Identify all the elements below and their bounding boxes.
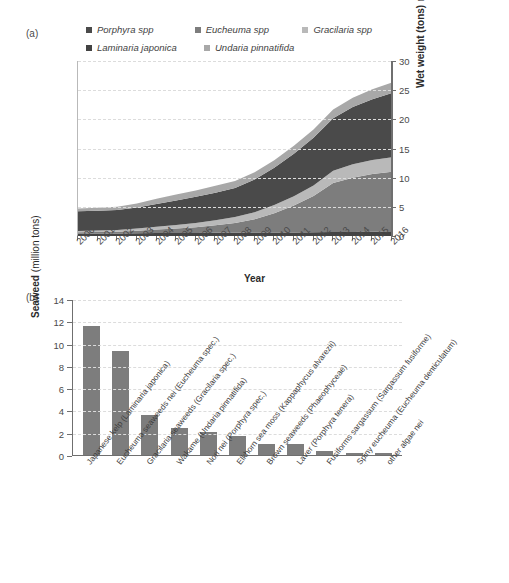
- y-axis-b-title-unit: (million tons): [30, 216, 41, 273]
- gridline-b-14: [73, 300, 402, 301]
- y-ticklabel-a-30: 30: [399, 56, 410, 67]
- legend-row-2: Laminaria japonica Undaria pinnatifida: [86, 40, 386, 55]
- y-tick-a-10: [391, 178, 396, 179]
- y-ticklabel-b-8: 8: [46, 361, 64, 372]
- gridline-b-8: [73, 367, 402, 368]
- y-tick-b-14: [67, 300, 72, 301]
- gridline-a-25: [78, 90, 391, 91]
- y-tick-a-20: [391, 119, 396, 120]
- gridline-b-12: [73, 322, 402, 323]
- y-ticklabel-a-5: 5: [399, 201, 404, 212]
- x-axis-a-title: Year: [0, 273, 509, 284]
- y-axis-b-title: Seaweed(million tons): [30, 216, 41, 319]
- legend-swatch-porphyra: [86, 27, 92, 33]
- y-ticklabel-a-15: 15: [399, 143, 410, 154]
- y-ticklabel-b-0: 0: [46, 451, 64, 462]
- legend-label-laminaria: Laminaria japonica: [97, 42, 177, 53]
- y-ticklabel-a-20: 20: [399, 114, 410, 125]
- y-axis-a-title: Wet weight (tons)Millions: [415, 0, 426, 88]
- legend-swatch-laminaria: [86, 45, 92, 51]
- gridline-a-10: [78, 178, 391, 179]
- gridline-a-5: [78, 207, 391, 208]
- y-tick-b-2: [67, 434, 72, 435]
- y-tick-b-12: [67, 322, 72, 323]
- gridline-a-15: [78, 149, 391, 150]
- y-ticklabel-b-10: 10: [46, 339, 64, 350]
- panel-a-stacked-area-chart: (a) Porphyra spp Eucheuma spp Gracilaria…: [0, 0, 509, 290]
- legend-item-eucheuma: Eucheuma spp: [195, 24, 289, 35]
- gridline-a-20: [78, 119, 391, 120]
- y-axis-b-title-main: Seaweed: [30, 275, 41, 318]
- y-tick-b-10: [67, 345, 72, 346]
- legend-row-1: Porphyra spp Eucheuma spp Gracilaria spp: [86, 22, 386, 37]
- legend-label-gracilaria: Gracilaria spp: [313, 24, 372, 35]
- y-ticklabel-b-2: 2: [46, 428, 64, 439]
- plot-area-a: [77, 61, 391, 236]
- y-ticklabel-b-6: 6: [46, 384, 64, 395]
- legend-label-porphyra: Porphyra spp: [97, 24, 154, 35]
- y-tick-a-5: [391, 207, 396, 208]
- y-tick-b-8: [67, 367, 72, 368]
- gridline-a-30: [78, 61, 391, 62]
- y-ticklabel-b-14: 14: [46, 295, 64, 306]
- legend-swatch-gracilaria: [302, 27, 308, 33]
- legend-label-undaria: Undaria pinnatifida: [215, 42, 294, 53]
- y-tick-a-15: [391, 149, 396, 150]
- y-tick-b-0: [67, 456, 72, 457]
- y-ticklabel-a-10: 10: [399, 172, 410, 183]
- gridline-b-10: [73, 345, 402, 346]
- panel-a-label: (a): [26, 28, 38, 39]
- y-axis-a-title-main: Wet weight (tons): [415, 5, 426, 88]
- y-ticklabel-a-25: 25: [399, 85, 410, 96]
- y-tick-b-4: [67, 411, 72, 412]
- legend-item-gracilaria: Gracilaria spp: [302, 24, 372, 35]
- y-ticklabel-b-4: 4: [46, 406, 64, 417]
- y-ticklabel-b-12: 12: [46, 317, 64, 328]
- y-tick-b-6: [67, 389, 72, 390]
- legend-item-laminaria: Laminaria japonica: [86, 42, 190, 53]
- legend-swatch-undaria: [204, 45, 210, 51]
- legend-swatch-eucheuma: [195, 27, 201, 33]
- panel-b-bar-chart: (b) Seaweed(million tons) 02468101214Jap…: [0, 288, 509, 583]
- legend-item-undaria: Undaria pinnatifida: [204, 42, 294, 53]
- y-tick-a-25: [391, 90, 396, 91]
- y-axis-a-title-unit: Millions: [416, 0, 426, 2]
- legend-label-eucheuma: Eucheuma spp: [206, 24, 269, 35]
- legend-item-porphyra: Porphyra spp: [86, 24, 181, 35]
- y-tick-a-30: [391, 61, 396, 62]
- legend-panel-a: Porphyra spp Eucheuma spp Gracilaria spp…: [86, 22, 386, 55]
